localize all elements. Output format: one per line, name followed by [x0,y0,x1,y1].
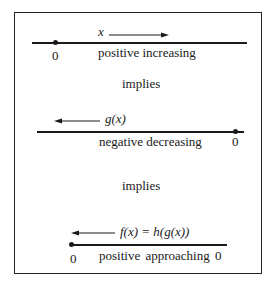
arrow-left-icon [54,118,102,124]
number-line-3 [70,244,227,246]
arrow-right-icon [109,32,169,38]
variable-x-label: x [98,24,104,40]
number-line-1 [32,42,247,44]
implies-label-1: implies [122,76,160,92]
variable-fx-label: f(x) = h(g(x)) [120,224,189,240]
variable-gx-label: g(x) [105,111,126,127]
zero-label-3: 0 [70,251,77,267]
arrow-left-icon [71,230,117,236]
caption-2: negative decreasing [99,134,202,150]
zero-label-2: 0 [232,134,239,150]
caption-3: positive approaching 0 [99,248,221,264]
zero-point-3 [69,242,74,247]
implies-label-2: implies [122,178,160,194]
zero-label-1: 0 [52,48,59,64]
number-line-2 [37,131,244,133]
zero-point-1 [53,40,58,45]
caption-1: positive increasing [98,45,196,61]
